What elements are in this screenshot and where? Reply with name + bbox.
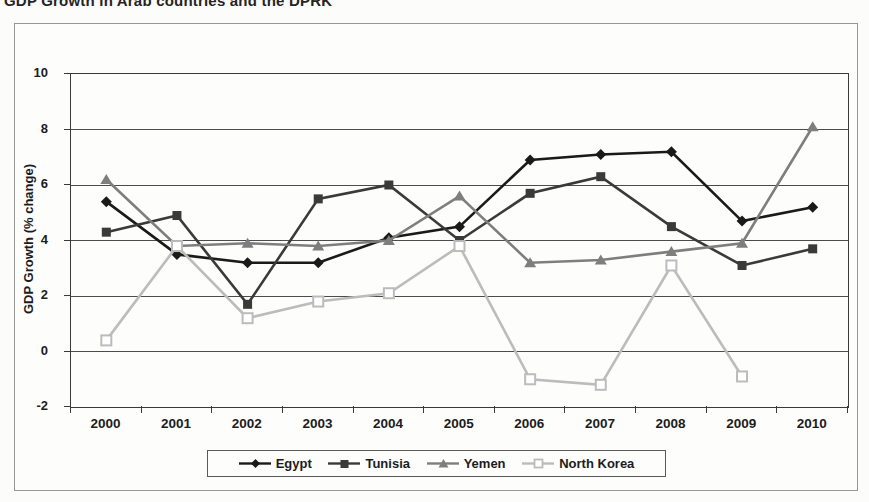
marker-open-square-north-korea <box>101 335 111 345</box>
marker-open-square-north-korea <box>313 297 323 307</box>
x-tick-mark <box>423 406 424 413</box>
x-tick-mark <box>847 406 848 413</box>
marker-triangle-yemen <box>100 174 112 184</box>
marker-square-tunisia <box>102 228 111 237</box>
y-tick-label: 6 <box>8 176 48 192</box>
marker-square-tunisia <box>172 211 181 220</box>
marker-square-tunisia <box>738 261 747 270</box>
series-line-north-korea <box>106 246 742 385</box>
chart-title-text: GDP Growth in Arab countries and the DPR… <box>4 0 564 9</box>
x-tick-label: 2009 <box>706 416 777 431</box>
marker-diamond-egypt <box>595 149 606 160</box>
scanned-chart-page: GDP Growth in Arab countries and the DPR… <box>0 0 869 502</box>
y-tick-label: 10 <box>8 65 48 81</box>
x-tick-label: 2006 <box>494 416 565 431</box>
y-tick-label: -2 <box>8 398 48 414</box>
marker-triangle-yemen <box>807 121 819 131</box>
x-tick-label: 2005 <box>423 416 494 431</box>
y-tick-label: 0 <box>8 343 48 359</box>
legend-item-tunisia: Tunisia <box>328 456 410 471</box>
marker-square-tunisia <box>384 181 393 190</box>
plot-area <box>70 73 849 408</box>
x-tick-label: 2002 <box>211 416 282 431</box>
marker-open-square-north-korea <box>596 380 606 390</box>
marker-open-square-north-korea <box>172 241 182 251</box>
marker-open-square-north-korea <box>455 241 465 251</box>
legend-diamond-sample-icon <box>239 457 271 470</box>
marker-open-square-north-korea <box>384 288 394 298</box>
x-tick-label: 2001 <box>141 416 212 431</box>
y-tick-label: 8 <box>8 121 48 137</box>
y-tick-label: 4 <box>8 232 48 248</box>
marker-square-tunisia <box>526 189 535 198</box>
x-tick-mark <box>211 406 212 413</box>
x-tick-label: 2007 <box>564 416 635 431</box>
y-tick-mark <box>64 129 70 130</box>
marker-open-square-north-korea <box>737 371 747 381</box>
marker-square-tunisia <box>808 244 817 253</box>
plot-lines <box>71 74 848 407</box>
legend: EgyptTunisiaYemenNorth Korea <box>207 450 666 477</box>
marker-square-tunisia <box>667 222 676 231</box>
legend-label: North Korea <box>559 456 634 471</box>
legend-label: Yemen <box>464 456 506 471</box>
legend-label: Egypt <box>276 456 312 471</box>
marker-open-square-north-korea <box>525 374 535 384</box>
x-tick-mark <box>494 406 495 413</box>
x-tick-mark <box>141 406 142 413</box>
x-tick-mark <box>353 406 354 413</box>
x-tick-mark <box>706 406 707 413</box>
legend-square-sample-icon <box>328 457 360 470</box>
marker-diamond-egypt <box>807 202 818 213</box>
x-tick-mark <box>635 406 636 413</box>
chart-frame: GDP Growth (% change) 1086420-2 20002001… <box>14 23 858 491</box>
marker-square-tunisia <box>243 300 252 309</box>
chart-title: GDP Growth in Arab countries and the DPR… <box>4 0 564 11</box>
marker-square-tunisia <box>314 194 323 203</box>
y-tick-label: 2 <box>8 287 48 303</box>
marker-square-tunisia <box>596 172 605 181</box>
marker-diamond-egypt <box>242 257 253 268</box>
x-tick-label: 2003 <box>282 416 353 431</box>
y-tick-mark <box>64 351 70 352</box>
legend-open-square-sample-icon <box>522 457 554 470</box>
legend-item-yemen: Yemen <box>427 456 506 471</box>
marker-diamond-egypt <box>313 257 324 268</box>
legend-triangle-sample-icon <box>427 457 459 470</box>
x-tick-mark <box>776 406 777 413</box>
marker-open-square-north-korea <box>243 313 253 323</box>
y-tick-mark <box>64 73 70 74</box>
x-tick-label: 2008 <box>635 416 706 431</box>
x-tick-mark <box>282 406 283 413</box>
y-tick-mark <box>64 295 70 296</box>
x-tick-label: 2004 <box>353 416 424 431</box>
x-tick-mark <box>564 406 565 413</box>
x-tick-label: 2010 <box>776 416 847 431</box>
x-tick-mark <box>70 406 71 413</box>
marker-open-square-north-korea <box>666 260 676 270</box>
marker-triangle-yemen <box>454 191 466 201</box>
x-tick-label: 2000 <box>70 416 141 431</box>
y-tick-mark <box>64 240 70 241</box>
y-tick-mark <box>64 184 70 185</box>
legend-item-north-korea: North Korea <box>522 456 634 471</box>
legend-label: Tunisia <box>365 456 410 471</box>
legend-item-egypt: Egypt <box>239 456 312 471</box>
